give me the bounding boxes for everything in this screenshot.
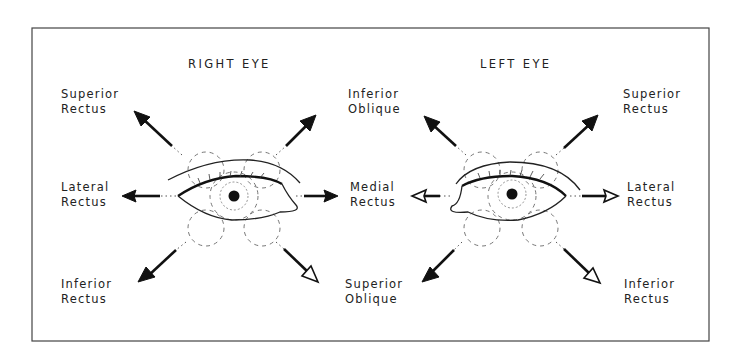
svg-text:Oblique: Oblique xyxy=(345,292,398,306)
right-pupil xyxy=(229,191,240,202)
arrow-left-lateral-rectus xyxy=(570,190,618,202)
arrow-right-inferior-oblique xyxy=(276,115,316,155)
label-right-lateral-rectus: Lateral Rectus xyxy=(61,180,109,209)
svg-text:Medial: Medial xyxy=(350,180,395,194)
arrow-left-superior-rectus xyxy=(556,115,598,155)
svg-text:Rectus: Rectus xyxy=(623,102,669,116)
arrow-left-inferior-oblique xyxy=(424,116,466,155)
arrow-left-superior-oblique xyxy=(422,242,462,282)
left-eye-drawing xyxy=(412,115,618,283)
right-eye-title: RIGHT EYE xyxy=(188,57,271,71)
extraocular-muscles-diagram: RIGHT EYE LEFT EYE Superior Rectus Infer… xyxy=(0,0,736,364)
svg-text:Inferior: Inferior xyxy=(61,277,112,291)
svg-text:Superior: Superior xyxy=(61,87,119,101)
svg-text:Oblique: Oblique xyxy=(348,102,401,116)
svg-text:Lateral: Lateral xyxy=(61,180,109,194)
svg-text:Superior: Superior xyxy=(623,87,681,101)
svg-text:Rectus: Rectus xyxy=(627,195,673,209)
left-eye-title: LEFT EYE xyxy=(480,57,552,71)
label-right-superior-rectus: Superior Rectus xyxy=(61,87,119,116)
arrow-right-medial-rectus xyxy=(296,190,338,202)
svg-text:Superior: Superior xyxy=(345,277,403,291)
label-right-inferior-rectus: Inferior Rectus xyxy=(61,277,112,306)
label-medial-rectus: Medial Rectus xyxy=(350,180,396,209)
label-left-lateral-rectus: Lateral Rectus xyxy=(627,180,675,209)
svg-text:Rectus: Rectus xyxy=(350,195,396,209)
arrow-left-medial-rectus xyxy=(412,190,450,202)
arrow-left-inferior-rectus xyxy=(556,242,600,283)
svg-text:Inferior: Inferior xyxy=(348,87,399,101)
svg-text:Rectus: Rectus xyxy=(624,292,670,306)
label-left-inferior-rectus: Inferior Rectus xyxy=(624,277,675,306)
label-left-superior-rectus: Superior Rectus xyxy=(623,87,681,116)
arrow-right-inferior-rectus xyxy=(138,242,186,282)
svg-text:Rectus: Rectus xyxy=(61,195,107,209)
label-superior-oblique: Superior Oblique xyxy=(345,277,403,306)
svg-text:Lateral: Lateral xyxy=(627,180,675,194)
arrow-right-lateral-rectus xyxy=(122,190,176,202)
label-right-inferior-oblique: Inferior Oblique xyxy=(348,87,401,116)
arrow-right-superior-oblique xyxy=(276,242,318,282)
svg-text:Rectus: Rectus xyxy=(61,292,107,306)
right-eye-drawing xyxy=(122,111,338,282)
svg-text:Inferior: Inferior xyxy=(624,277,675,291)
left-pupil xyxy=(507,189,518,200)
svg-text:Rectus: Rectus xyxy=(61,102,107,116)
arrow-right-superior-rectus xyxy=(134,111,182,155)
